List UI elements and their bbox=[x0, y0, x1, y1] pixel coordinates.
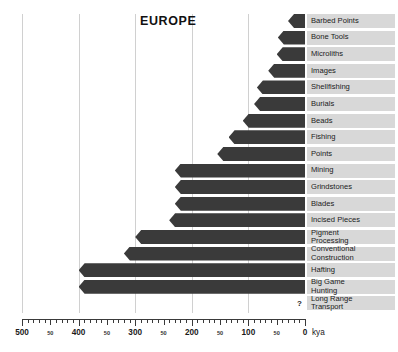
bar[interactable] bbox=[254, 97, 305, 111]
category-label: Bone Tools bbox=[307, 33, 348, 41]
bar[interactable] bbox=[288, 14, 305, 28]
category-label-band[interactable]: Blades bbox=[307, 197, 395, 211]
bar[interactable] bbox=[257, 80, 305, 94]
bar[interactable] bbox=[135, 230, 305, 244]
tick-290 bbox=[141, 319, 142, 323]
bar[interactable] bbox=[217, 147, 305, 161]
category-label-band[interactable]: Long Range Transport bbox=[307, 296, 395, 310]
bar-row[interactable]: Bone Tools bbox=[0, 31, 398, 45]
bar-row[interactable]: Shellfishing bbox=[0, 80, 398, 94]
bar-row[interactable]: Mining bbox=[0, 164, 398, 178]
category-label-band[interactable]: Burials bbox=[307, 97, 395, 111]
category-label: Barbed Points bbox=[307, 17, 359, 25]
axis-minor-label-150: 50 bbox=[217, 330, 223, 336]
tick-470 bbox=[39, 319, 40, 323]
bar-row[interactable]: Hafting bbox=[0, 263, 398, 277]
category-label-band[interactable]: Grindstones bbox=[307, 180, 395, 194]
bar[interactable] bbox=[175, 197, 305, 211]
tick-270 bbox=[152, 319, 153, 323]
tick-180 bbox=[203, 319, 204, 323]
tick-30 bbox=[288, 319, 289, 323]
bar[interactable] bbox=[229, 130, 305, 144]
bar-row[interactable]: Incised Pieces bbox=[0, 213, 398, 227]
bar-row[interactable]: Conventional Construction bbox=[0, 247, 398, 261]
category-label-band[interactable]: Bone Tools bbox=[307, 31, 395, 45]
tick-380 bbox=[90, 319, 91, 323]
tick-390 bbox=[84, 319, 85, 323]
bar-row[interactable]: Images bbox=[0, 64, 398, 78]
tick-460 bbox=[45, 319, 46, 323]
bar[interactable] bbox=[175, 164, 305, 178]
tick-410 bbox=[73, 319, 74, 323]
category-label: Pigment Processing bbox=[307, 229, 349, 246]
category-label: Big Game Hunting bbox=[307, 278, 345, 295]
bar-row[interactable]: Grindstones bbox=[0, 180, 398, 194]
bar-row[interactable]: Fishing bbox=[0, 130, 398, 144]
tick-60 bbox=[271, 319, 272, 323]
tick-360 bbox=[101, 319, 102, 323]
bar[interactable] bbox=[268, 64, 305, 78]
axis-label-500: 500 bbox=[15, 328, 29, 337]
bar[interactable] bbox=[169, 213, 305, 227]
bar-row[interactable]: Microliths bbox=[0, 47, 398, 61]
category-label-band[interactable]: Fishing bbox=[307, 130, 395, 144]
bar[interactable] bbox=[124, 247, 305, 261]
category-label-band[interactable]: Shellfishing bbox=[307, 80, 395, 94]
tick-200 bbox=[192, 319, 193, 326]
category-label-band[interactable]: Incised Pieces bbox=[307, 213, 395, 227]
category-label-band[interactable]: Pigment Processing bbox=[307, 230, 395, 244]
tick-130 bbox=[231, 319, 232, 323]
bar[interactable] bbox=[79, 263, 305, 277]
category-label-band[interactable]: Big Game Hunting bbox=[307, 280, 395, 294]
category-label: Images bbox=[307, 67, 336, 75]
category-label-band[interactable]: Hafting bbox=[307, 263, 395, 277]
axis-minor-label-450: 50 bbox=[47, 330, 53, 336]
category-label: Points bbox=[307, 150, 332, 158]
category-label-band[interactable]: Barbed Points bbox=[307, 14, 395, 28]
bar-row[interactable]: ?Long Range Transport bbox=[0, 296, 398, 310]
category-label: Mining bbox=[307, 166, 333, 174]
axis-minor-label-50: 50 bbox=[274, 330, 280, 336]
axis-unit-label: kya bbox=[312, 328, 325, 337]
tick-160 bbox=[214, 319, 215, 323]
tick-480 bbox=[33, 319, 34, 323]
tick-450 bbox=[50, 319, 51, 325]
tick-240 bbox=[169, 319, 170, 323]
bar-row[interactable]: Burials bbox=[0, 97, 398, 111]
category-label: Microliths bbox=[307, 50, 343, 58]
bar-rows: Barbed PointsBone ToolsMicrolithsImagesS… bbox=[0, 14, 398, 313]
tick-10 bbox=[299, 319, 300, 323]
tick-420 bbox=[67, 319, 68, 323]
bar-row[interactable]: Blades bbox=[0, 197, 398, 211]
category-label-band[interactable]: Conventional Construction bbox=[307, 247, 395, 261]
bar[interactable] bbox=[243, 114, 305, 128]
tick-70 bbox=[265, 319, 266, 323]
bar-row[interactable]: Big Game Hunting bbox=[0, 280, 398, 294]
bar[interactable] bbox=[175, 180, 305, 194]
axis-label-0: 0 bbox=[303, 328, 308, 337]
category-label: Grindstones bbox=[307, 183, 352, 191]
tick-190 bbox=[197, 319, 198, 323]
bar-row[interactable]: Barbed Points bbox=[0, 14, 398, 28]
category-label-band[interactable]: Images bbox=[307, 64, 395, 78]
tick-490 bbox=[28, 319, 29, 323]
bar-row[interactable]: Beads bbox=[0, 114, 398, 128]
category-label: Long Range Transport bbox=[307, 295, 352, 312]
tick-310 bbox=[130, 319, 131, 323]
tick-100 bbox=[248, 319, 249, 326]
category-label-band[interactable]: Beads bbox=[307, 114, 395, 128]
tick-80 bbox=[260, 319, 261, 323]
tick-400 bbox=[79, 319, 80, 326]
tick-40 bbox=[282, 319, 283, 323]
bar[interactable] bbox=[79, 280, 305, 294]
category-label: Incised Pieces bbox=[307, 216, 360, 224]
bar-row[interactable]: Points bbox=[0, 147, 398, 161]
bar[interactable] bbox=[278, 31, 305, 45]
category-label-band[interactable]: Microliths bbox=[307, 47, 395, 61]
bar-row[interactable]: Pigment Processing bbox=[0, 230, 398, 244]
bar[interactable] bbox=[277, 47, 305, 61]
category-label-band[interactable]: Mining bbox=[307, 164, 395, 178]
category-label-band[interactable]: Points bbox=[307, 147, 395, 161]
category-label: Shellfishing bbox=[307, 83, 350, 91]
tick-140 bbox=[226, 319, 227, 323]
